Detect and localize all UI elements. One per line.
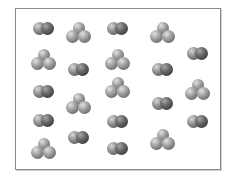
- diatomic-molecule: [33, 22, 55, 35]
- diatomic-molecule: [33, 114, 55, 127]
- triatomic-molecule: [31, 49, 57, 70]
- diatomic-molecule: [152, 63, 174, 76]
- atom-icon: [78, 30, 91, 43]
- atom-icon: [195, 115, 208, 128]
- atom-icon: [117, 85, 130, 98]
- diatomic-molecule: [107, 115, 129, 128]
- triatomic-molecule: [105, 77, 131, 98]
- atom-icon: [160, 63, 173, 76]
- triatomic-molecule: [66, 93, 92, 114]
- triatomic-molecule: [185, 79, 211, 100]
- triatomic-molecule: [105, 49, 131, 70]
- atom-icon: [43, 57, 56, 70]
- triatomic-molecule: [150, 129, 176, 150]
- atom-icon: [115, 22, 128, 35]
- atom-icon: [43, 146, 56, 159]
- diatomic-molecule: [68, 131, 90, 144]
- atom-icon: [162, 30, 175, 43]
- diatomic-molecule: [33, 85, 55, 98]
- atom-icon: [197, 87, 210, 100]
- atom-icon: [76, 63, 89, 76]
- atom-icon: [162, 137, 175, 150]
- atom-icon: [41, 22, 54, 35]
- atom-icon: [78, 101, 91, 114]
- diatomic-molecule: [152, 97, 174, 110]
- atom-icon: [41, 85, 54, 98]
- diatomic-molecule: [68, 63, 90, 76]
- atom-icon: [160, 97, 173, 110]
- atom-icon: [41, 114, 54, 127]
- diatomic-molecule: [187, 115, 209, 128]
- triatomic-molecule: [66, 22, 92, 43]
- diatomic-molecule: [107, 142, 129, 155]
- atom-icon: [115, 142, 128, 155]
- triatomic-molecule: [150, 22, 176, 43]
- diatomic-molecule: [107, 22, 129, 35]
- atom-icon: [195, 47, 208, 60]
- atom-icon: [117, 57, 130, 70]
- atom-icon: [115, 115, 128, 128]
- atom-icon: [76, 131, 89, 144]
- triatomic-molecule: [31, 138, 57, 159]
- diatomic-molecule: [187, 47, 209, 60]
